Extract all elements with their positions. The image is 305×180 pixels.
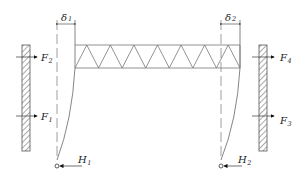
truss-diagonal <box>122 45 134 68</box>
left-wall <box>22 45 30 151</box>
truss-diagonal <box>181 45 193 68</box>
delta2-label: δ2 <box>225 12 236 23</box>
truss-diagonal <box>158 45 170 68</box>
truss-diagonal <box>110 45 122 68</box>
truss-diagonal <box>169 45 181 68</box>
truss-diagonal <box>87 45 99 68</box>
H1-label: H1 <box>77 154 91 167</box>
truss-diagonal <box>216 45 228 68</box>
delta1-label: δ1 <box>61 12 72 23</box>
truss-diagonal <box>205 45 217 68</box>
truss-diagonal <box>193 45 205 68</box>
F4-label: F4 <box>279 52 292 65</box>
F2-label: F2 <box>40 52 53 65</box>
right-wall <box>259 45 267 151</box>
truss-diagonal <box>146 45 158 68</box>
left-hinge <box>55 164 59 168</box>
truss-diagonal <box>228 45 240 68</box>
F1-label: F1 <box>40 111 53 124</box>
right-column-deflected <box>221 20 240 160</box>
truss-diagonal <box>99 45 111 68</box>
truss-diagonal <box>134 45 146 68</box>
left-column-deflected <box>57 20 75 160</box>
frame-diagram: δ1 δ2 F2 F1 F4 F3 H1 H2 <box>0 0 305 180</box>
F3-label: F3 <box>279 115 292 128</box>
right-hinge <box>219 164 223 168</box>
truss-diagonal <box>75 45 87 68</box>
H2-label: H2 <box>237 154 251 167</box>
truss <box>75 45 240 68</box>
